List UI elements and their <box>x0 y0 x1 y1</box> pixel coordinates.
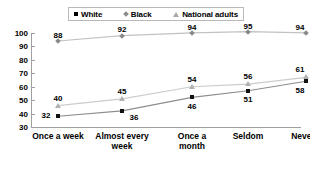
y-tick-40 <box>31 114 35 115</box>
point-white-0 <box>56 114 60 118</box>
point-white-4 <box>304 79 308 83</box>
diamond-marker-icon <box>123 11 129 17</box>
y-tick-100 <box>31 33 35 34</box>
value-label-black-2: 94 <box>182 23 202 32</box>
value-label-national-1: 45 <box>112 87 132 96</box>
line-black <box>58 32 306 41</box>
value-label-national-0: 40 <box>48 94 68 103</box>
value-label-black-4: 94 <box>290 23 310 32</box>
value-label-white-2: 46 <box>182 102 202 111</box>
y-tick-70 <box>31 73 35 74</box>
legend-label-black: Black <box>131 10 152 19</box>
chart-legend: White Black National adults <box>68 7 244 21</box>
point-national-1 <box>119 96 125 101</box>
point-national-3 <box>245 81 251 86</box>
square-marker-icon <box>74 12 78 16</box>
line-white <box>58 81 306 116</box>
value-label-black-0: 88 <box>48 31 68 40</box>
point-white-3 <box>246 89 250 93</box>
value-label-black-1: 92 <box>112 25 132 34</box>
value-label-national-3: 56 <box>238 72 258 81</box>
value-label-national-2: 54 <box>182 75 202 84</box>
point-white-2 <box>190 95 194 99</box>
y-tick-60 <box>31 87 35 88</box>
y-axis-label-40: 40 <box>0 110 28 119</box>
legend-item-black: Black <box>124 10 152 19</box>
x-axis-label-once-a-week: Once a week <box>31 131 85 141</box>
value-label-white-3: 51 <box>238 95 258 104</box>
value-label-white-4: 58 <box>290 86 310 95</box>
y-tick-30 <box>31 127 35 128</box>
legend-item-national-adults: National adults <box>173 10 238 19</box>
legend-label-national-adults: National adults <box>182 10 238 19</box>
x-axis-label-once-a-month: Once a month <box>165 131 219 151</box>
point-national-0 <box>55 103 61 108</box>
y-axis-label-100: 100 <box>0 29 28 38</box>
y-tick-50 <box>31 100 35 101</box>
value-label-white-0: 32 <box>36 111 56 120</box>
y-axis-label-70: 70 <box>0 69 28 78</box>
value-label-national-4: 61 <box>290 65 310 74</box>
y-tick-90 <box>31 46 35 47</box>
y-tick-80 <box>31 60 35 61</box>
x-axis-label-never: Never <box>276 131 310 141</box>
y-axis-label-80: 80 <box>0 56 28 65</box>
series-lines <box>0 0 310 171</box>
x-axis-label-seldom: Seldom <box>221 131 275 141</box>
y-axis-label-60: 60 <box>0 83 28 92</box>
value-label-white-1: 36 <box>124 113 144 122</box>
y-axis-label-30: 30 <box>0 123 28 132</box>
x-axis-line <box>31 127 301 128</box>
legend-label-white: White <box>81 10 102 19</box>
y-axis-label-90: 90 <box>0 42 28 51</box>
y-axis-label-50: 50 <box>0 96 28 105</box>
line-chart: White Black National adults 100 90 80 70… <box>0 0 310 171</box>
legend-item-white: White <box>74 10 102 19</box>
triangle-marker-icon <box>173 12 179 17</box>
point-national-2 <box>189 84 195 89</box>
x-axis-label-almost-every-week: Almost every week <box>95 131 149 151</box>
value-label-black-3: 95 <box>238 22 258 31</box>
